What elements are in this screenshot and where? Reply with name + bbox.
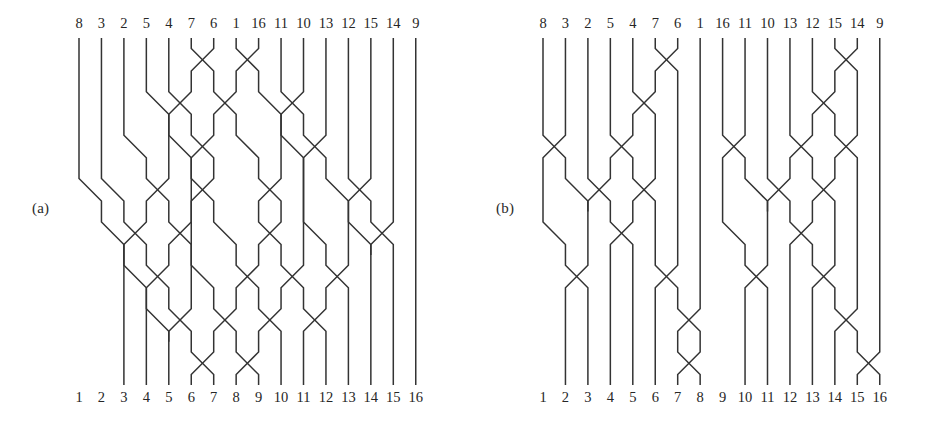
panel-b-top-label-1: 8 <box>539 14 546 32</box>
panel-a-top-label-16: 9 <box>412 14 419 32</box>
panel-b-bottom-label-9: 9 <box>719 388 726 406</box>
panel-b-top-label-13: 12 <box>805 14 820 32</box>
panel-a-bottom-labels: 12345678910111213141516 <box>0 388 464 408</box>
panel-a-top-label-10: 11 <box>274 14 288 32</box>
panel-a-top-label-8: 1 <box>233 14 240 32</box>
panel-a-top-label-7: 6 <box>210 14 217 32</box>
panel-a-top-label-13: 12 <box>341 14 356 32</box>
wire-10 <box>281 38 348 385</box>
panel-a-top-labels: 83254761161110131215149 <box>0 14 464 34</box>
panel-b-top-label-12: 13 <box>783 14 798 32</box>
panel-b-top-label-4: 5 <box>607 14 614 32</box>
panel-a-top-label-3: 2 <box>120 14 127 32</box>
wire-4 <box>124 38 169 385</box>
panel-b-bottom-label-6: 6 <box>652 388 659 406</box>
figure-root: (a) 83254761161110131215149 123456789101… <box>0 0 928 421</box>
panel-b-bottom-label-8: 8 <box>697 388 704 406</box>
wire-6 <box>655 38 677 385</box>
panel-b-bottom-label-10: 10 <box>738 388 753 406</box>
panel-b-top-label-10: 11 <box>738 14 752 32</box>
wire-15 <box>371 38 393 385</box>
panel-a-top-label-14: 15 <box>364 14 379 32</box>
panel-a-top-label-11: 10 <box>296 14 311 32</box>
panel-b-bottom-label-13: 13 <box>805 388 820 406</box>
panel-a-bottom-label-9: 9 <box>255 388 262 406</box>
panel-b-top-label-7: 6 <box>674 14 681 32</box>
wire-15 <box>745 38 857 385</box>
panel-b-top-label-16: 9 <box>876 14 883 32</box>
panel-b-bottom-label-2: 2 <box>562 388 569 406</box>
panel-a-bottom-label-6: 6 <box>188 388 195 406</box>
wire-14 <box>348 38 370 255</box>
panel-a-bottom-label-4: 4 <box>143 388 150 406</box>
panel-b-bottom-label-15: 15 <box>850 388 865 406</box>
network-diagram-a <box>0 0 464 421</box>
wire-11 <box>768 38 880 385</box>
wire-2 <box>101 38 213 385</box>
wire-11 <box>236 38 303 385</box>
panel-a-top-label-9: 16 <box>251 14 266 32</box>
panel-a-bottom-label-5: 5 <box>165 388 172 406</box>
panel-a-top-label-15: 14 <box>386 14 401 32</box>
panel-b-bottom-label-12: 12 <box>783 388 798 406</box>
panel-b-top-label-15: 14 <box>850 14 865 32</box>
panel-a-bottom-label-3: 3 <box>120 388 127 406</box>
panel-a-top-label-5: 4 <box>165 14 172 32</box>
panel-a-bottom-label-12: 12 <box>319 388 334 406</box>
panel-a-bottom-label-10: 10 <box>274 388 289 406</box>
panel-b-bottom-label-5: 5 <box>629 388 636 406</box>
panel-a-top-label-6: 7 <box>188 14 195 32</box>
panel-b-top-label-3: 2 <box>584 14 591 32</box>
panel-b-bottom-label-14: 14 <box>828 388 843 406</box>
panel-a-top-label-2: 3 <box>98 14 105 32</box>
panel-a-bottom-label-16: 16 <box>409 388 424 406</box>
panel-a-bottom-label-7: 7 <box>210 388 217 406</box>
panel-b-bottom-label-11: 11 <box>761 388 775 406</box>
panel-b-bottom-label-4: 4 <box>607 388 614 406</box>
wire-8 <box>678 38 700 385</box>
panel-a-bottom-label-13: 13 <box>341 388 356 406</box>
panel-b: (b) 83254761161110131215149 123456789101… <box>464 0 928 421</box>
wire-16 <box>857 38 879 385</box>
panel-a-top-label-4: 5 <box>143 14 150 32</box>
panel-a-bottom-label-14: 14 <box>364 388 379 406</box>
panel-b-top-label-8: 1 <box>697 14 704 32</box>
panel-b-bottom-label-7: 7 <box>674 388 681 406</box>
panel-a-bottom-label-2: 2 <box>98 388 105 406</box>
panel-a: (a) 83254761161110131215149 123456789101… <box>0 0 464 421</box>
panel-b-top-labels: 83254761161110131215149 <box>464 14 928 34</box>
network-diagram-b <box>464 0 928 421</box>
panel-b-top-label-9: 16 <box>715 14 730 32</box>
panel-b-bottom-labels: 12345678910111213141516 <box>464 388 928 408</box>
panel-a-top-label-1: 8 <box>75 14 82 32</box>
panel-a-top-label-12: 13 <box>319 14 334 32</box>
panel-b-top-label-2: 3 <box>562 14 569 32</box>
panel-a-bottom-label-15: 15 <box>386 388 401 406</box>
panel-b-bottom-label-16: 16 <box>873 388 888 406</box>
panel-b-bottom-label-1: 1 <box>539 388 546 406</box>
panel-b-top-label-14: 15 <box>828 14 843 32</box>
panel-b-bottom-label-3: 3 <box>584 388 591 406</box>
wire-14 <box>790 38 857 385</box>
panel-b-top-label-6: 7 <box>652 14 659 32</box>
wire-7 <box>146 38 213 385</box>
panel-a-bottom-label-11: 11 <box>297 388 311 406</box>
panel-a-bottom-label-8: 8 <box>233 388 240 406</box>
panel-a-bottom-label-1: 1 <box>75 388 82 406</box>
panel-b-top-label-5: 4 <box>629 14 636 32</box>
panel-b-top-label-11: 10 <box>760 14 775 32</box>
wire-7 <box>565 38 677 385</box>
